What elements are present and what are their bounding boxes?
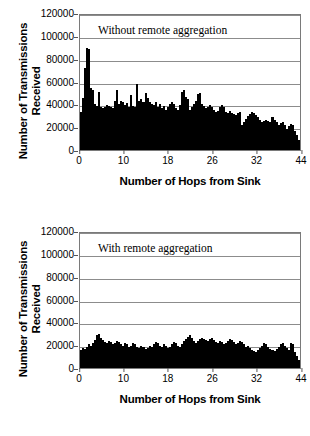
- x-tick-mark: [212, 368, 213, 372]
- chart-title-annotation-top: Without remote aggregation: [98, 24, 227, 37]
- y-tick-mark: [74, 83, 78, 84]
- y-tick-mark: [74, 60, 78, 61]
- y-tick-label: 100000: [41, 32, 74, 42]
- y-tick-label: 100000: [41, 250, 74, 260]
- y-tick-mark: [74, 369, 78, 370]
- x-tick-mark: [301, 368, 302, 372]
- bar: [298, 360, 300, 368]
- y-tick-label: 20000: [46, 123, 74, 133]
- y-tick-label: 60000: [46, 78, 74, 88]
- y-tick-mark: [74, 323, 78, 324]
- y-tick-label: 120000: [41, 9, 74, 19]
- x-tick-label: 10: [118, 373, 129, 385]
- y-tick-mark: [74, 128, 78, 129]
- x-axis-tick-labels-bottom: 01018263244: [79, 373, 301, 387]
- x-tick-label: 26: [207, 155, 218, 167]
- bar: [298, 140, 300, 150]
- y-tick-mark: [74, 151, 78, 152]
- x-tick-mark: [301, 150, 302, 154]
- y-tick-mark: [74, 37, 78, 38]
- x-axis-title-top: Number of Hops from Sink: [79, 175, 301, 187]
- x-tick-label: 44: [295, 373, 306, 385]
- y-tick-mark: [74, 232, 78, 233]
- x-tick-mark: [257, 368, 258, 372]
- y-axis-tick-labels-top: 020000400006000080000100000120000: [26, 14, 74, 151]
- y-tick-label: 40000: [46, 100, 74, 110]
- x-tick-label: 10: [118, 155, 129, 167]
- chart-title-annotation-bottom: With remote aggregation: [98, 242, 213, 255]
- x-axis-tick-labels-top: 01018263244: [79, 155, 301, 169]
- x-tick-label: 44: [295, 155, 306, 167]
- y-tick-label: 120000: [41, 227, 74, 237]
- x-tick-label: 18: [162, 373, 173, 385]
- x-tick-label: 0: [76, 373, 82, 385]
- y-tick-mark: [74, 255, 78, 256]
- x-tick-mark: [79, 368, 80, 372]
- y-tick-mark: [74, 346, 78, 347]
- y-axis-tick-labels-bottom: 020000400006000080000100000120000: [26, 232, 74, 369]
- x-tick-mark: [168, 150, 169, 154]
- y-tick-mark: [74, 105, 78, 106]
- y-tick-label: 80000: [46, 55, 74, 65]
- y-tick-label: 0: [68, 146, 74, 156]
- x-tick-mark: [168, 368, 169, 372]
- y-tick-label: 0: [68, 364, 74, 374]
- y-tick-label: 20000: [46, 341, 74, 351]
- x-tick-label: 18: [162, 155, 173, 167]
- plot-area-top: Without remote aggregation: [79, 14, 301, 151]
- y-tick-label: 80000: [46, 273, 74, 283]
- y-tick-mark: [74, 278, 78, 279]
- x-tick-mark: [79, 150, 80, 154]
- x-axis-title-bottom: Number of Hops from Sink: [79, 393, 301, 405]
- chart-panel-without-aggregation: Number of Transmissions Received 0200004…: [0, 0, 310, 218]
- x-tick-mark: [123, 150, 124, 154]
- x-tick-label: 32: [251, 155, 262, 167]
- x-tick-mark: [257, 150, 258, 154]
- y-tick-label: 60000: [46, 296, 74, 306]
- x-tick-label: 32: [251, 373, 262, 385]
- figure-two-stacked-bar-charts: Number of Transmissions Received 0200004…: [0, 0, 310, 436]
- x-tick-mark: [212, 150, 213, 154]
- y-tick-label: 40000: [46, 318, 74, 328]
- chart-panel-with-aggregation: Number of Transmissions Received 0200004…: [0, 218, 310, 436]
- x-tick-mark: [123, 368, 124, 372]
- x-tick-label: 0: [76, 155, 82, 167]
- y-tick-mark: [74, 301, 78, 302]
- plot-area-bottom: With remote aggregation: [79, 232, 301, 369]
- x-tick-label: 26: [207, 373, 218, 385]
- y-tick-mark: [74, 14, 78, 15]
